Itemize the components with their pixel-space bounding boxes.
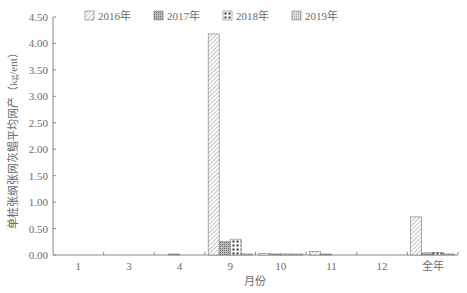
y-tick-label: 3.00 <box>29 90 49 102</box>
x-tick-label: 10 <box>275 260 287 272</box>
bar <box>320 254 331 255</box>
legend-swatch <box>154 11 163 20</box>
y-tick-label: 0.50 <box>29 223 49 235</box>
y-axis: 0.000.501.001.502.002.503.003.504.004.50 <box>29 11 56 261</box>
bar <box>270 254 281 255</box>
legend-swatch <box>223 11 232 20</box>
y-tick-label: 2.50 <box>29 117 49 129</box>
bar <box>259 253 270 255</box>
bar-chart: 2016年2017年2018年2019年 0.000.501.001.502.0… <box>0 0 467 293</box>
y-tick-label: 4.00 <box>29 37 49 49</box>
y-tick-label: 3.50 <box>29 64 49 76</box>
x-tick-label: 11 <box>326 260 337 272</box>
legend-label: 2018年 <box>236 9 269 22</box>
bar <box>219 242 230 255</box>
y-tick-label: 0.00 <box>29 249 49 261</box>
bars <box>169 34 455 255</box>
bar <box>433 252 444 255</box>
x-tick-label: 12 <box>377 260 388 272</box>
bar <box>411 217 422 255</box>
x-tick-label: 1 <box>76 260 82 272</box>
y-tick-label: 2.00 <box>29 143 49 155</box>
bar <box>309 251 320 255</box>
x-axis: 1349101112全年 <box>53 252 458 272</box>
x-tick-label: 3 <box>126 260 132 272</box>
x-tick-label: 全年 <box>422 259 444 272</box>
legend-label: 2016年 <box>98 9 131 22</box>
legend: 2016年2017年2018年2019年 <box>85 9 338 22</box>
bar <box>444 254 455 255</box>
bar <box>281 254 292 255</box>
bar <box>292 254 303 255</box>
bar <box>422 253 433 255</box>
x-axis-title: 月份 <box>244 275 266 287</box>
y-tick-label: 4.50 <box>29 11 49 23</box>
legend-label: 2019年 <box>305 9 338 22</box>
y-axis-title: 单桩张纲张网灰鲳平均网产（kg/ent） <box>6 47 19 229</box>
bar <box>230 239 241 255</box>
bar <box>208 34 219 255</box>
y-tick-label: 1.50 <box>29 170 49 182</box>
bar <box>169 254 180 255</box>
legend-label: 2017年 <box>167 9 200 22</box>
y-tick-label: 1.00 <box>29 196 49 208</box>
bar <box>241 254 252 255</box>
legend-swatch <box>85 11 94 20</box>
legend-swatch <box>292 11 301 20</box>
x-tick-label: 9 <box>227 260 233 272</box>
x-tick-label: 4 <box>177 260 183 272</box>
